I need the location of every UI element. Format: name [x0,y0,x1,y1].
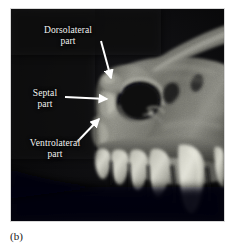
skull-photograph: Dorsolateral part Septal part Ventrolate… [10,8,225,222]
label-ventrolateral-line2: part [13,149,97,160]
label-septal-line1: Septal [17,88,73,99]
label-dorsolateral-part: Dorsolateral part [29,25,107,46]
label-ventrolateral-part: Ventrolateral part [13,138,97,159]
label-septal-line2: part [17,99,73,110]
label-dorsolateral-line1: Dorsolateral [29,25,107,36]
label-septal-part: Septal part [17,88,73,109]
label-dorsolateral-line2: part [29,36,107,47]
figure-caption: (b) [10,229,23,243]
label-ventrolateral-line1: Ventrolateral [13,138,97,149]
figure-panel: Dorsolateral part Septal part Ventrolate… [0,0,230,251]
